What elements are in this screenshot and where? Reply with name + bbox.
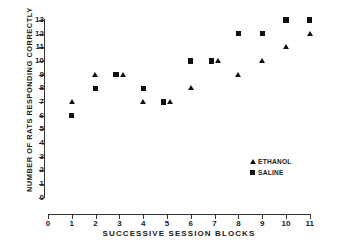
y-axis-line (44, 19, 45, 198)
y-tick-label: 2 (10, 166, 44, 174)
legend-item-label: ETHANOL (258, 158, 292, 165)
x-tick-label: 0 (38, 220, 58, 228)
y-tick-label: 3 (10, 153, 44, 161)
x-tick-label: 8 (228, 220, 248, 228)
x-tick-label: 5 (157, 220, 177, 228)
x-tick-label: 2 (86, 220, 106, 228)
x-axis-label: SUCCESSIVE SESSION BLOCKS (48, 230, 310, 238)
chart-legend: ETHANOLSALINE (250, 155, 292, 177)
legend-item-saline: SALINE (250, 166, 292, 177)
y-tick-label: 6 (10, 112, 44, 120)
x-tick-label: 7 (205, 220, 225, 228)
y-tick-label: 1 (10, 180, 44, 188)
x-tick-label: 10 (276, 220, 296, 228)
square-marker-icon (250, 169, 258, 176)
y-tick-label: 4 (10, 139, 44, 147)
y-tick-label: 9 (10, 71, 44, 79)
x-tick-label: 4 (133, 220, 153, 228)
y-tick-label: 7 (10, 98, 44, 106)
y-tick-label: 10 (10, 57, 44, 65)
legend-item-label: SALINE (258, 169, 284, 176)
y-tick-label: 8 (10, 84, 44, 92)
y-tick-label: 11 (10, 43, 44, 51)
scatter-chart: NUMBER OF RATS RESPONDING CORRECTLY 0123… (0, 0, 358, 246)
x-axis-line (48, 214, 310, 215)
x-tick-label: 3 (109, 220, 129, 228)
x-tick-label: 9 (252, 220, 272, 228)
x-tick-label: 1 (62, 220, 82, 228)
y-tick-label: 13 (10, 16, 44, 24)
y-tick-label: 12 (10, 30, 44, 38)
x-tick-label: 6 (181, 220, 201, 228)
x-tick-label: 11 (300, 220, 320, 228)
y-tick-label: 5 (10, 125, 44, 133)
y-tick-label: 0 (10, 194, 44, 202)
legend-item-ethanol: ETHANOL (250, 155, 292, 166)
triangle-marker-icon (250, 158, 258, 165)
y-axis-ticks: 012345678910111213 (0, 0, 44, 246)
